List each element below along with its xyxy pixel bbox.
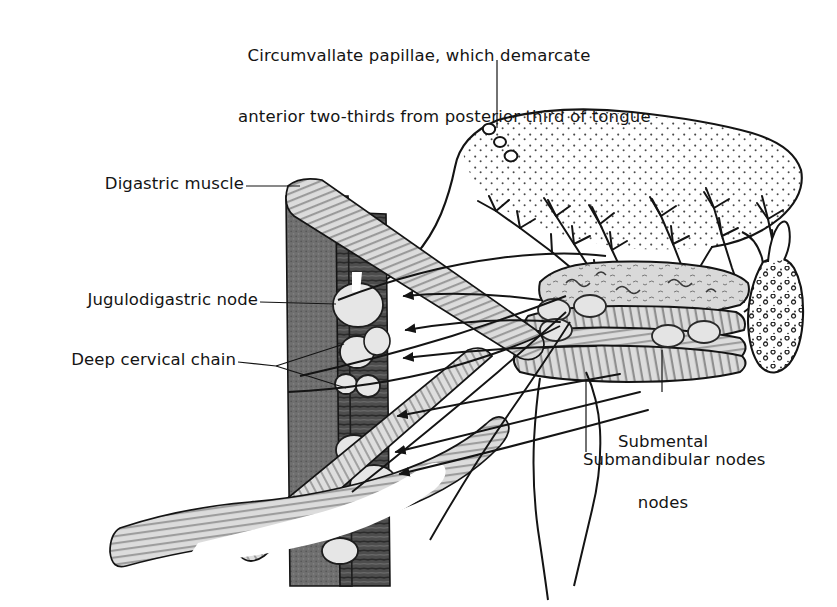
label-deep-cervical-chain: Deep cervical chain xyxy=(0,350,236,370)
figure-caption-line-1: Circumvallate papillae, which demarcate xyxy=(238,46,600,66)
sublingual-duct xyxy=(768,221,790,262)
label-digastric-muscle: Digastric muscle xyxy=(0,174,244,194)
label-submental-nodes-line-2: nodes xyxy=(596,493,730,513)
figure-caption-line-2: anterior two-thirds from posterior third… xyxy=(238,107,600,127)
label-submandibular-nodes: Submandibular nodes xyxy=(583,450,833,470)
sublingual-gland xyxy=(748,258,803,372)
label-jugulodigastric-node: Jugulodigastric node xyxy=(0,290,258,310)
anatomy-figure: Circumvallate papillae, which demarcate … xyxy=(0,0,837,607)
neck-contour xyxy=(534,372,601,600)
sublingual-gland-group xyxy=(742,221,803,372)
leader-deep-cervical-chain-trunk xyxy=(238,362,276,366)
mandible-rim xyxy=(514,346,746,382)
label-submental-nodes: Submental nodes xyxy=(596,392,730,553)
figure-caption: Circumvallate papillae, which demarcate … xyxy=(238,6,600,167)
